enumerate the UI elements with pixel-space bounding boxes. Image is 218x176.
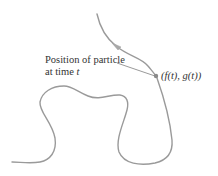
particle-path-curve [12,14,172,164]
position-label-line2: at time t [45,66,125,78]
coordinate-label: (f(t), g(t)) [161,70,201,82]
position-label-prefix: at time [45,66,77,77]
time-variable: t [77,66,80,77]
position-label: Position of particle at time t [45,54,125,78]
particle-point-marker [154,74,158,78]
position-label-line1: Position of particle [45,54,125,66]
parametric-curve-diagram: Position of particle at time t (f(t), g(… [0,0,218,176]
curve-canvas [0,0,218,176]
